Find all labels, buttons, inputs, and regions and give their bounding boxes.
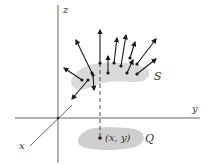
- origin-point: [57, 117, 59, 119]
- vector-base-dot: [125, 71, 128, 74]
- surface-integral-diagram: z y x S Q (x, y): [0, 0, 214, 165]
- y-axis-label: y: [192, 104, 198, 114]
- x-axis-label: x: [19, 141, 25, 151]
- normal-vector-arrow: [112, 38, 117, 65]
- vector-base-dot: [80, 78, 83, 81]
- vector-base-dot: [86, 78, 89, 81]
- vector-base-dot: [106, 71, 109, 74]
- vector-base-dot: [128, 56, 131, 59]
- point-xy-label: (x, y): [105, 133, 130, 143]
- vector-base-dot: [135, 62, 138, 65]
- x-axis: [30, 105, 72, 146]
- vector-base-dot: [98, 61, 101, 64]
- vector-base-dot: [91, 73, 94, 76]
- normal-vector-arrow: [119, 35, 126, 68]
- normal-vector-arrow: [128, 42, 135, 60]
- point-xy-dot: [98, 136, 102, 140]
- normal-vector-arrow: [98, 30, 101, 65]
- vector-base-dot: [135, 72, 138, 75]
- z-axis-label: z: [63, 5, 68, 15]
- vector-base-dot: [119, 64, 122, 67]
- vector-base-dot: [112, 61, 115, 64]
- surface-s-label: S: [154, 71, 162, 82]
- region-q-label: Q: [145, 133, 154, 144]
